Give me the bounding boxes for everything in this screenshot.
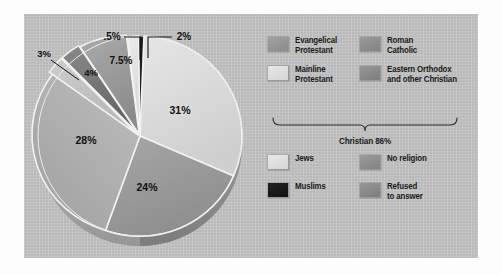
- pie-label-24: 24%: [136, 181, 158, 193]
- swatch-roman-catholic: [360, 37, 381, 52]
- swatch-evangelical-protestant: [268, 37, 289, 52]
- legend-item-evangelical-protestant[interactable]: Evangelical Protestant: [268, 36, 360, 55]
- pie-label-31: 31%: [169, 104, 191, 116]
- swatch-eastern-orthodox: [360, 66, 381, 81]
- pie-label-28: 28%: [75, 134, 97, 146]
- swatch-refused-to-answer: [360, 183, 381, 198]
- chart-screenshot: 31% 24% 28% 3% 4% 7.5% 2% .5% Evangelica…: [0, 0, 502, 275]
- legend-label-mainline-protestant: Mainline Protestant: [295, 65, 333, 84]
- pie-label-4: 4%: [84, 67, 98, 78]
- swatch-mainline-protestant: [268, 66, 289, 81]
- swatch-no-religion: [360, 155, 381, 170]
- pie-label-3: 3%: [37, 48, 51, 59]
- swatch-muslims: [268, 183, 289, 198]
- legend-item-muslims[interactable]: Muslims: [268, 182, 360, 201]
- legend-item-roman-catholic[interactable]: Roman Catholic: [360, 36, 468, 55]
- legend-group-other: Jews No religion Muslims Refused to answ…: [268, 154, 468, 201]
- legend-item-eastern-orthodox[interactable]: Eastern Orthodox and other Christian: [360, 65, 468, 84]
- legend-item-jews[interactable]: Jews: [268, 154, 360, 170]
- pie-slices: [32, 35, 242, 236]
- legend-item-mainline-protestant[interactable]: Mainline Protestant: [268, 65, 360, 84]
- legend-label-muslims: Muslims: [295, 182, 326, 192]
- christian-total-label: Christian 86%: [275, 136, 456, 146]
- legend-item-refused-to-answer[interactable]: Refused to answer: [360, 182, 468, 201]
- legend-label-refused-to-answer: Refused to answer: [387, 182, 423, 201]
- legend-label-no-religion: No religion: [387, 154, 427, 164]
- legend-group-christian: Evangelical Protestant Roman Catholic Ma…: [268, 36, 468, 84]
- pie-label-7-5: 7.5%: [110, 55, 133, 66]
- legend-item-no-religion[interactable]: No religion: [360, 154, 468, 170]
- legend-label-roman-catholic: Roman Catholic: [387, 36, 417, 55]
- legend: Evangelical Protestant Roman Catholic Ma…: [268, 36, 468, 241]
- legend-label-evangelical-protestant: Evangelical Protestant: [295, 36, 337, 55]
- legend-label-eastern-orthodox: Eastern Orthodox and other Christian: [387, 65, 457, 84]
- legend-label-jews: Jews: [295, 154, 314, 164]
- pie-label-0-5: .5%: [103, 31, 120, 42]
- pie-label-2: 2%: [177, 31, 192, 42]
- christian-brace: Christian 86%: [270, 116, 460, 150]
- pie-chart: 31% 24% 28% 3% 4% 7.5% 2% .5%: [24, 14, 274, 258]
- swatch-jews: [268, 155, 289, 170]
- pie-chart-svg: 31% 24% 28% 3% 4% 7.5% 2% .5%: [24, 14, 274, 258]
